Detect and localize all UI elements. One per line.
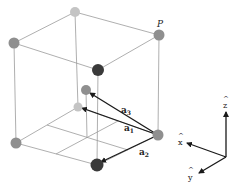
x-axis-arrow xyxy=(187,143,226,157)
atom-top-left xyxy=(9,38,20,49)
point-p-label: P xyxy=(156,19,164,29)
coordinate-axes xyxy=(187,112,226,173)
atom-bottom-left xyxy=(11,138,22,149)
atom-top-front xyxy=(92,64,104,76)
atom-center xyxy=(81,85,91,95)
vector-a3-label: a3 xyxy=(121,105,131,116)
atom-p xyxy=(154,30,165,41)
atom-origin xyxy=(153,130,164,141)
vector-a1-label: a1 xyxy=(124,123,134,134)
y-axis-arrow xyxy=(199,157,226,173)
unit-cell-diagram: P a3 a1 a2 ^ z ^ x ^ y xyxy=(0,0,235,188)
atom-bottom-back xyxy=(74,103,83,112)
atom-bottom-front xyxy=(91,159,104,172)
y-axis-label: y xyxy=(187,173,193,182)
z-axis-label: z xyxy=(223,101,227,110)
vector-a2 xyxy=(101,135,158,162)
vector-a2-label: a2 xyxy=(139,147,149,158)
x-axis-label: x xyxy=(178,138,183,147)
atom-top-back xyxy=(70,7,80,17)
